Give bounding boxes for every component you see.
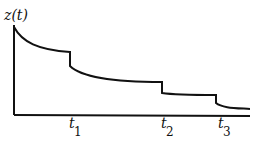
svg-text:1: 1	[74, 125, 82, 139]
x-axis	[14, 115, 250, 116]
svg-text:3: 3	[223, 125, 231, 139]
z-curve	[14, 27, 250, 109]
svg-text:2: 2	[166, 125, 174, 139]
y-axis-label: z(t)	[3, 7, 28, 23]
x-tick-label-2: t 2	[161, 115, 174, 139]
x-tick-label-3: t 3	[218, 115, 231, 139]
diagram-figure: z(t) t 1 t 2 t 3	[0, 0, 255, 144]
x-tick-label-1: t 1	[69, 115, 82, 139]
